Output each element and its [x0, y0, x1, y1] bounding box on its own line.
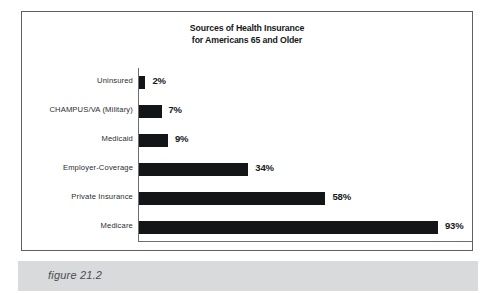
bar-value-label: 93% [445, 220, 463, 231]
bar-track [139, 134, 168, 147]
bar-track [139, 105, 162, 118]
bar-fill [139, 105, 162, 118]
bar-track [139, 221, 438, 234]
bar-row: CHAMPUS/VA (Military) 7% [22, 97, 474, 126]
bar-category-label: Uninsured [0, 76, 133, 85]
plot-area: Uninsured 2% CHAMPUS/VA (Military) 7% Me… [22, 12, 474, 252]
bar-track [139, 192, 325, 205]
figure-caption-band: figure 21.2 [18, 261, 478, 291]
bar-value-label: 2% [152, 75, 165, 86]
bar-fill [139, 163, 248, 176]
bar-category-label: Employer-Coverage [0, 163, 133, 172]
bar-track [139, 76, 145, 89]
bar-fill [139, 76, 145, 89]
bar-row: Employer-Coverage 34% [22, 155, 474, 184]
bar-value-label: 58% [332, 191, 350, 202]
bar-fill [139, 134, 168, 147]
bar-track [139, 163, 248, 176]
bar-value-label: 9% [175, 133, 188, 144]
bar-value-label: 7% [169, 104, 182, 115]
bar-category-label: Medicare [0, 221, 133, 230]
bar-fill [139, 221, 438, 234]
bar-category-label: CHAMPUS/VA (Military) [0, 105, 133, 114]
figure-frame: Sources of Health Insurance for American… [21, 11, 473, 251]
bar-category-label: Private Insurance [0, 192, 133, 201]
bar-category-label: Medicaid [0, 134, 133, 143]
bar-row: Uninsured 2% [22, 68, 474, 97]
bar-row: Private Insurance 58% [22, 184, 474, 213]
bar-row: Medicaid 9% [22, 126, 474, 155]
figure-caption-text: figure 21.2 [48, 269, 102, 281]
bar-value-label: 34% [255, 162, 273, 173]
bar-row: Medicare 93% [22, 213, 474, 242]
bar-fill [139, 192, 325, 205]
